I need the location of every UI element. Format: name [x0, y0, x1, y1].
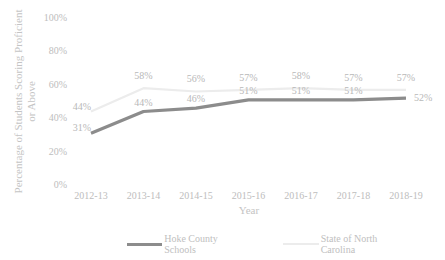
y-tick-label: 40%: [49, 112, 67, 123]
data-label: 58%: [134, 70, 152, 81]
legend-label-state: State of North Carolina: [321, 233, 403, 255]
x-axis-ticks: 2012-132013-142014-152015-162016-172017-…: [74, 190, 422, 201]
x-tick-label: 2016-17: [284, 190, 317, 201]
legend-item-state: State of North Carolina: [283, 233, 403, 255]
data-label: 57%: [239, 72, 257, 83]
data-label: 51%: [239, 85, 257, 96]
y-tick-label: 20%: [49, 146, 67, 157]
legend-item-hoke: Hoke County Schools: [127, 233, 241, 255]
x-axis-title: Year: [239, 204, 260, 216]
data-label: 44%: [134, 97, 152, 108]
data-label: 57%: [397, 72, 415, 83]
data-label: 58%: [292, 70, 310, 81]
x-tick-label: 2017-18: [337, 190, 370, 201]
x-tick-label: 2012-13: [74, 190, 107, 201]
y-tick-label: 60%: [49, 79, 67, 90]
legend-swatch-state: [283, 243, 318, 245]
x-tick-label: 2018-19: [389, 190, 422, 201]
data-label: 56%: [187, 73, 205, 84]
y-tick-label: 80%: [49, 45, 67, 56]
y-tick-label: 100%: [44, 12, 67, 23]
y-tick-label: 0%: [54, 179, 67, 190]
data-label: 52%: [414, 92, 432, 103]
x-tick-label: 2015-16: [232, 190, 265, 201]
data-label: 31%: [73, 122, 91, 133]
data-label: 51%: [292, 85, 310, 96]
data-label: 46%: [187, 93, 205, 104]
x-tick-label: 2013-14: [127, 190, 160, 201]
y-axis-ticks: 0%20%40%60%80%100%: [44, 12, 67, 190]
data-label: 57%: [344, 72, 362, 83]
y-axis-title-line: Percentage of Students Scoring Proficien…: [12, 10, 24, 194]
data-label: 51%: [344, 85, 362, 96]
x-tick-label: 2014-15: [179, 190, 212, 201]
legend-label-hoke: Hoke County Schools: [164, 233, 241, 255]
data-label: 44%: [73, 101, 91, 112]
y-axis-title: Percentage of Students Scoring Proficien…: [12, 10, 37, 194]
y-axis-title-line: or Above: [25, 81, 37, 122]
legend-swatch-hoke: [127, 243, 162, 246]
line-chart: Percentage of Students Scoring Proficien…: [0, 0, 445, 260]
legend: Hoke County Schools State of North Carol…: [127, 233, 445, 255]
data-labels: 31%44%46%51%51%51%52%44%58%56%57%58%57%5…: [73, 70, 433, 133]
